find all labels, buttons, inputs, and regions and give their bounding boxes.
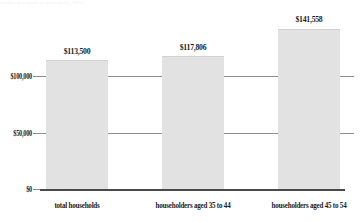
bar-householders-45-54 xyxy=(278,29,340,191)
x-axis-baseline xyxy=(40,189,345,191)
ytick-label-50000: $50,000 xyxy=(5,129,32,138)
bar-householders-35-44 xyxy=(162,56,224,191)
bar-value-householders-35-44: $117,806 xyxy=(166,42,219,52)
bar-value-householders-45-54: $141,558 xyxy=(282,14,335,24)
plot-area: $113,500 $117,806 $141,558 $100,000 $50,… xyxy=(0,0,361,222)
bar-chart: median net worth of households, 2013 $11… xyxy=(0,0,361,222)
category-label-total-households: total households xyxy=(29,201,126,210)
bar-total-households xyxy=(46,60,108,191)
ytick-label-100000: $100,000 xyxy=(5,72,32,81)
category-label-householders-45-54: householders aged 45 to 54 xyxy=(256,201,361,210)
ytick-label-0: $0 xyxy=(5,185,32,194)
bar-value-total-households: $113,500 xyxy=(50,46,103,56)
tick-stub-50000-right xyxy=(345,133,354,134)
tick-stub-100000-left xyxy=(33,76,40,77)
tick-stub-100000-right xyxy=(345,76,354,77)
category-label-householders-35-44: householders aged 35 to 44 xyxy=(140,201,246,210)
tick-stub-0-left xyxy=(33,189,40,190)
tick-stub-50000-left xyxy=(33,133,40,134)
